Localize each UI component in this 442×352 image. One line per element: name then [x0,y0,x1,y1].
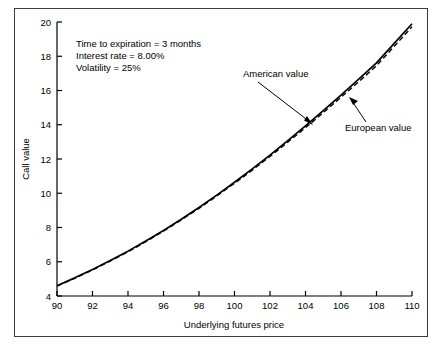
x-tick-label: 104 [298,300,314,311]
x-tick-label: 92 [87,300,98,311]
call-value-chart: 9092949698100102104106108110 46810121416… [0,0,442,352]
note-line-3: Volatility = 25% [76,62,141,73]
european-value-label: European value [345,122,412,133]
x-tick-label: 100 [227,300,243,311]
x-axis-ticks: 9092949698100102104106108110 [52,291,420,311]
figure-container: 9092949698100102104106108110 46810121416… [0,0,442,352]
y-tick-label: 12 [40,154,51,165]
y-tick-label: 16 [40,85,51,96]
y-tick-label: 6 [46,256,51,267]
european-value-leader-line [352,101,366,122]
y-tick-label: 10 [40,188,51,199]
american-value-label: American value [243,68,308,79]
x-tick-label: 110 [404,300,419,311]
y-tick-label: 8 [46,222,51,233]
x-tick-label: 108 [369,300,385,311]
x-tick-label: 102 [262,300,278,311]
note-line-2: Interest rate = 8.00% [76,50,165,61]
y-tick-label: 14 [40,119,51,130]
y-axis-title: Call value [20,138,31,180]
x-axis-title: Underlying futures price [184,319,284,330]
american-value-leader-line [258,82,310,122]
x-tick-label: 106 [333,300,349,311]
european-value-arrowhead [349,97,358,105]
x-tick-label: 90 [52,300,63,311]
x-tick-label: 96 [158,300,169,311]
y-tick-label: 4 [46,291,51,302]
x-tick-label: 98 [194,300,205,311]
y-axis-ticks: 468101214161820 [40,17,62,302]
note-line-1: Time to expiration = 3 months [76,38,201,49]
x-tick-label: 94 [123,300,134,311]
y-tick-label: 18 [40,51,51,62]
y-tick-label: 20 [40,17,51,28]
